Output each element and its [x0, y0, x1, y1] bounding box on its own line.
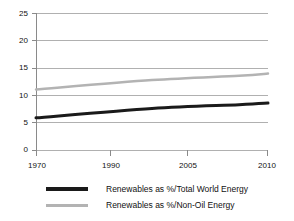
x-axis-label-1990: 1990 — [91, 162, 131, 170]
series-line-total-world-energy — [36, 103, 268, 118]
x-axis-label-1970: 1970 — [17, 162, 57, 170]
chart-legend: Renewables as %/Total World Energy Renew… — [0, 182, 294, 221]
gridlines — [36, 14, 268, 151]
plot-area: 25 20 15 10 5 0 1970 1990 2005 2010 — [0, 0, 294, 178]
y-axis-label-20: 20 — [6, 37, 28, 45]
legend-label-non-oil-energy: Renewables as %/Non-Oil Energy — [106, 200, 235, 210]
x-axis-label-2010: 2010 — [247, 162, 287, 170]
y-axis-ticks — [32, 14, 36, 151]
legend-item-total-world-energy: Renewables as %/Total World Energy — [46, 182, 248, 196]
y-axis-label-10: 10 — [6, 92, 28, 100]
y-axis-label-15: 15 — [6, 64, 28, 72]
x-axis-ticks — [37, 150, 268, 156]
y-axis-label-25: 25 — [6, 10, 28, 18]
legend-item-non-oil-energy: Renewables as %/Non-Oil Energy — [46, 198, 235, 212]
renewables-share-line-chart: 25 20 15 10 5 0 1970 1990 2005 2010 Rene… — [0, 0, 294, 221]
y-axis-label-5: 5 — [6, 119, 28, 127]
plot-canvas — [0, 0, 294, 178]
legend-label-total-world-energy: Renewables as %/Total World Energy — [106, 184, 248, 194]
series-line-non-oil-energy — [36, 74, 268, 90]
x-axis-label-2005: 2005 — [168, 162, 208, 170]
legend-swatch-total-world-energy — [46, 187, 88, 191]
legend-swatch-non-oil-energy — [46, 204, 88, 207]
y-axis-label-0: 0 — [6, 146, 28, 154]
